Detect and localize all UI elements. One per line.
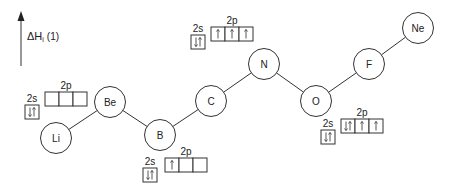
orbital-2p-box bbox=[45, 92, 59, 106]
element-symbol: Be bbox=[104, 97, 117, 108]
orbital-2s-box bbox=[321, 130, 335, 144]
arrow-up-icon bbox=[18, 11, 25, 21]
element-symbol: B bbox=[157, 130, 164, 141]
element-node-c: C bbox=[196, 86, 227, 117]
energy-axis: ΔHi(1) bbox=[18, 11, 60, 66]
element-symbol: C bbox=[207, 96, 214, 107]
element-node-o: O bbox=[301, 86, 332, 117]
connector-c-n bbox=[224, 73, 252, 92]
orbital-2p-box bbox=[179, 158, 193, 172]
orbital-2p-label: 2p bbox=[356, 107, 368, 118]
element-node-be: Be bbox=[95, 87, 126, 118]
element-symbol: O bbox=[312, 96, 320, 107]
orbital-2s-box bbox=[143, 168, 157, 182]
orbital-2p-box bbox=[193, 158, 207, 172]
orbital-2p-box bbox=[73, 92, 87, 106]
connector-n-o bbox=[277, 73, 304, 92]
orbital-2s-label: 2s bbox=[323, 118, 334, 129]
connector-be-b bbox=[123, 111, 147, 127]
element-node-ne: Ne bbox=[403, 13, 434, 44]
orbital-diagram-o: 2s2p bbox=[321, 107, 383, 144]
element-node-n: N bbox=[249, 49, 280, 80]
orbital-2p-box bbox=[341, 119, 355, 133]
orbital-2p-label: 2p bbox=[226, 15, 238, 26]
element-symbol: F bbox=[366, 59, 372, 70]
connector-lines bbox=[69, 37, 406, 129]
orbital-diagram-be: 2s2p bbox=[25, 80, 87, 119]
orbital-2s-label: 2s bbox=[145, 156, 156, 167]
orbital-2p-label: 2p bbox=[60, 80, 72, 91]
connector-o-f bbox=[329, 73, 357, 92]
orbital-2s-box bbox=[191, 35, 205, 49]
connector-li-be bbox=[69, 111, 97, 130]
orbital-2p-label: 2p bbox=[180, 146, 192, 157]
element-node-li: Li bbox=[41, 123, 72, 154]
axis-label: ΔHi(1) bbox=[27, 30, 59, 43]
orbital-2s-box bbox=[25, 105, 39, 119]
element-node-b: B bbox=[145, 120, 176, 151]
orbital-diagram-b: 2s2p bbox=[143, 146, 207, 182]
orbital-2p-box bbox=[59, 92, 73, 106]
orbital-2s-label: 2s bbox=[27, 93, 38, 104]
connector-f-ne bbox=[381, 37, 405, 55]
element-node-f: F bbox=[354, 49, 385, 80]
element-symbol: N bbox=[260, 59, 267, 70]
element-symbol: Ne bbox=[412, 23, 425, 34]
orbital-2s-label: 2s bbox=[193, 23, 204, 34]
element-symbol: Li bbox=[52, 133, 60, 144]
ionization-energy-diagram: ΔHi(1) LiBeBCNOFNe 2s2p2s2p2s2p2s2p bbox=[0, 0, 456, 189]
connector-b-c bbox=[173, 110, 198, 127]
orbital-diagram-n: 2s2p bbox=[191, 15, 253, 49]
